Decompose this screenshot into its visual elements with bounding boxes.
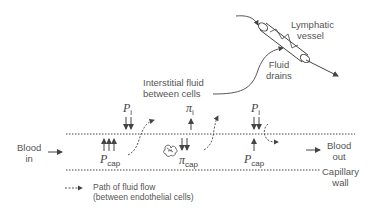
legend-label: Path of fluid flow (between endothelial … bbox=[93, 182, 194, 202]
capillary-wall-label: Capillary wall bbox=[322, 166, 359, 188]
pi-cap-symbol: πcap bbox=[179, 153, 198, 169]
pcap-left-up-arrows-icon bbox=[104, 139, 114, 151]
interstitial-fluid-label: Interstitial fluid between cells bbox=[143, 77, 204, 99]
p-i-right-symbol: Pi bbox=[251, 101, 260, 117]
pi-right-down-arrows-icon bbox=[254, 117, 259, 129]
fluid-drains-label: Fluid drains bbox=[266, 59, 292, 81]
p-i-left-symbol: Pi bbox=[123, 101, 132, 117]
p-cap-right-symbol: Pcap bbox=[244, 152, 264, 168]
pi-i-symbol: πi bbox=[186, 101, 194, 117]
pi-cap-down-arrows-icon bbox=[182, 138, 187, 150]
lymph-inflow-curve bbox=[236, 16, 258, 25]
fluid-path-middle-icon bbox=[204, 116, 218, 150]
blood-in-label: Blood in bbox=[17, 142, 41, 164]
p-cap-left-symbol: Pcap bbox=[100, 152, 120, 168]
pi-left-down-arrows-icon bbox=[126, 117, 131, 129]
fluid-path-left-icon bbox=[128, 120, 154, 155]
protein-molecule-icon bbox=[164, 145, 177, 156]
blood-out-label: Blood out bbox=[327, 140, 351, 162]
lymphatic-vessel-label: Lymphatic vessel bbox=[291, 19, 334, 41]
lymph-outflow-arrow bbox=[306, 60, 338, 76]
fluid-path-right-icon bbox=[264, 124, 278, 142]
